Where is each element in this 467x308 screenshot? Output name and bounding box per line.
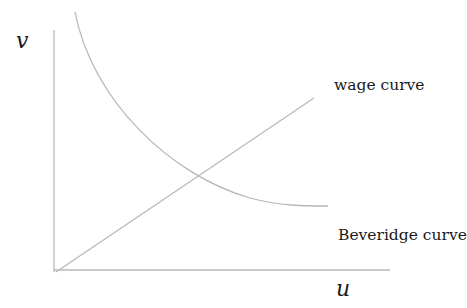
y-axis-label: v [16,28,28,53]
wage-curve-line [56,98,314,272]
x-axis-label: u [336,276,350,301]
beveridge-curve-label: Beveridge curve [338,226,467,244]
beveridge-curve-line [75,12,328,206]
wage-curve-label: wage curve [334,76,425,94]
